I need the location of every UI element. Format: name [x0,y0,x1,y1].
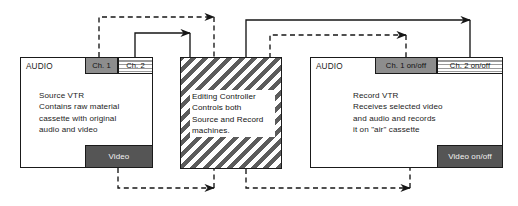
source-tab-ch2[interactable]: Ch. 2 [118,57,153,74]
record-tab-ch2-label: Ch. 2 on/off [449,61,491,70]
wire-source-video [118,168,214,188]
record-vtr-description: Record VTR Receives selected video and a… [353,90,503,135]
wire-controller-to-record-ch2 [246,20,470,58]
diagram-canvas: AUDIO Ch. 1 Ch. 2 Source VTR Contains ra… [0,0,518,206]
wire-source-ch2 [135,33,190,57]
editing-controller-description: Editing Controller Controls both Source … [190,90,275,137]
wire-source-ch1 [99,17,214,57]
record-audio-label: AUDIO [316,62,343,71]
source-tab-ch2-label: Ch. 2 [125,61,146,70]
source-tab-ch1-label: Ch. 1 [92,61,111,70]
source-vtr-description: Source VTR Contains raw material cassett… [39,90,149,135]
record-tab-ch2[interactable]: Ch. 2 on/off [437,57,503,74]
wire-controller-to-record-ch1 [270,35,406,58]
record-video-tab[interactable]: Video on/off [437,145,503,168]
record-tab-ch1[interactable]: Ch. 1 on/off [375,57,437,74]
record-tab-ch1-label: Ch. 1 on/off [386,61,426,70]
source-audio-label: AUDIO [26,62,53,71]
source-tab-ch1[interactable]: Ch. 1 [85,57,118,74]
wire-controller-video [246,169,410,188]
source-video-tab[interactable]: Video [85,145,153,168]
